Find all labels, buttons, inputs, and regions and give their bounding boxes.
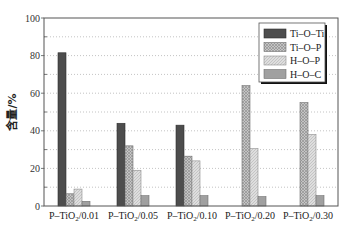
- legend-label: Ti–O–P: [290, 42, 322, 53]
- bar-ti-o-p: [242, 86, 250, 206]
- x-category-label: P–TiO2/0.30: [283, 210, 333, 223]
- x-category-label: P–TiO2/0.20: [225, 210, 275, 223]
- y-axis-ticks: 020406080100: [25, 13, 40, 212]
- bar-ti-o-p: [125, 146, 133, 206]
- bar-ti-o-ti: [117, 123, 125, 206]
- bar-h-o-c: [316, 196, 324, 206]
- bar-ti-o-p: [66, 194, 74, 206]
- bar-h-o-p: [74, 189, 82, 206]
- bar-h-o-p: [250, 149, 258, 206]
- bar-h-o-p: [192, 161, 200, 206]
- bar-h-o-c: [258, 197, 266, 206]
- legend-swatch-ti-o-p: [264, 43, 286, 52]
- legend-swatch-h-o-p: [264, 56, 286, 65]
- legend-label: H–O–C: [290, 69, 321, 80]
- x-category-label: P–TiO2/0.01: [49, 210, 99, 223]
- bar-ti-o-p: [184, 156, 192, 206]
- legend: Ti–O–TiTi–O–PH–O–PH–O–C: [259, 23, 327, 84]
- bar-h-o-p: [133, 170, 141, 206]
- legend-label: H–O–P: [290, 55, 320, 66]
- y-tick-label: 60: [30, 88, 40, 99]
- y-tick-label: 80: [30, 50, 40, 61]
- bar-h-o-c: [141, 196, 149, 206]
- y-tick-label: 20: [30, 163, 40, 174]
- y-axis-label: 含量/%: [5, 93, 19, 131]
- legend-label: Ti–O–Ti: [290, 28, 325, 39]
- bar-ti-o-ti: [58, 53, 66, 206]
- x-axis-categories: P–TiO2/0.01P–TiO2/0.05P–TiO2/0.10P–TiO2/…: [49, 210, 333, 223]
- x-category-label: P–TiO2/0.10: [167, 210, 217, 223]
- bar-ti-o-ti: [176, 125, 184, 206]
- bar-h-o-p: [308, 135, 316, 206]
- x-category-label: P–TiO2/0.05: [108, 210, 158, 223]
- bar-h-o-c: [200, 196, 208, 206]
- y-tick-label: 100: [25, 13, 40, 24]
- y-tick-label: 0: [35, 201, 40, 212]
- legend-swatch-h-o-c: [264, 70, 286, 79]
- y-tick-label: 40: [30, 125, 40, 136]
- bar-ti-o-p: [300, 103, 308, 206]
- bar-h-o-c: [82, 201, 90, 206]
- legend-swatch-ti-o-ti: [264, 29, 286, 38]
- bar-chart: 020406080100 P–TiO2/0.01P–TiO2/0.05P–TiO…: [0, 0, 350, 232]
